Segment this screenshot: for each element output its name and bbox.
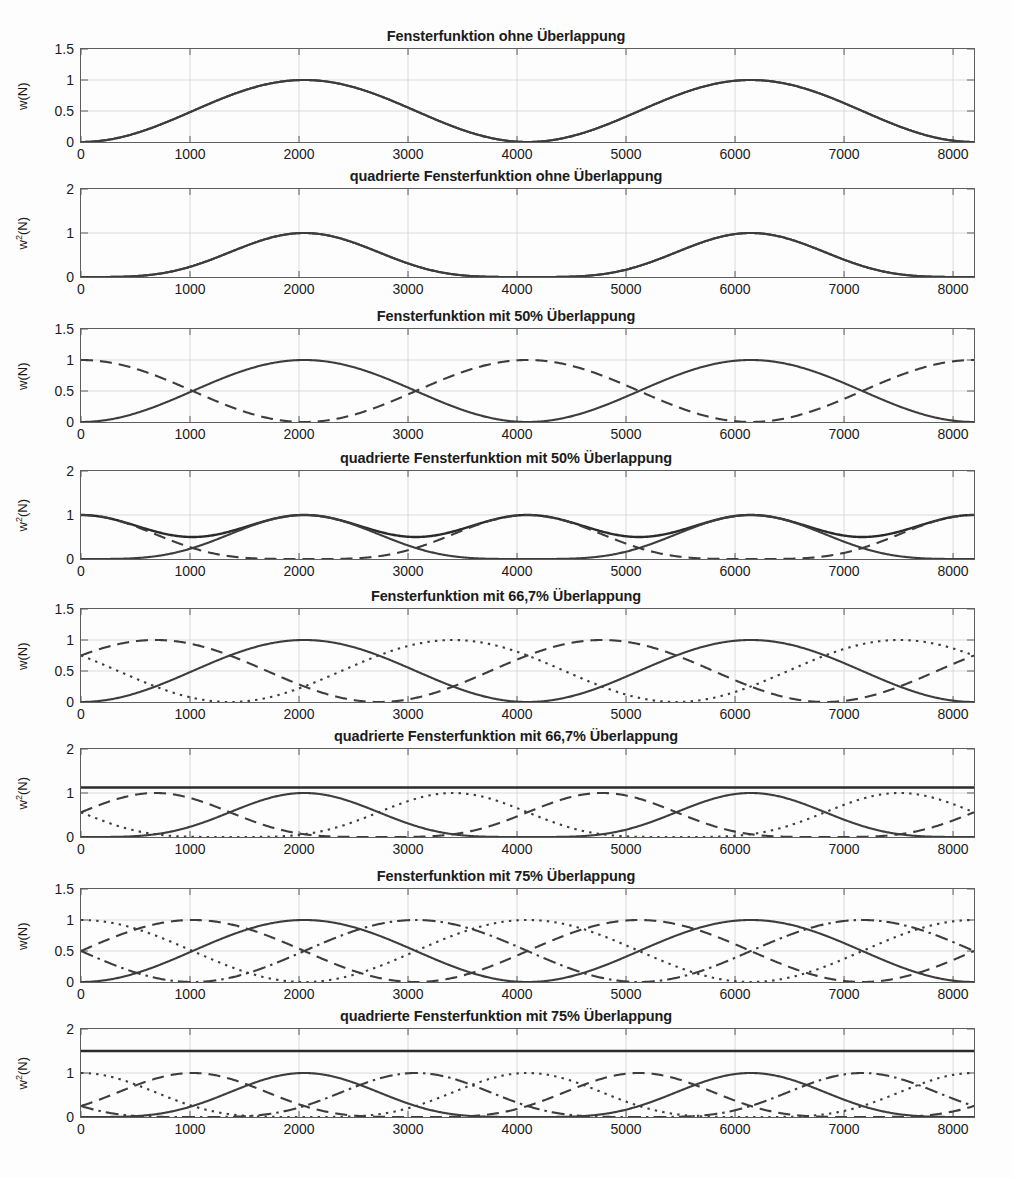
- plot-area: [80, 1028, 975, 1118]
- x-tick-label: 4000: [501, 986, 532, 1002]
- y-tick-label: 2: [4, 1021, 74, 1037]
- y-tick-label: 0: [4, 134, 74, 150]
- x-tick-label: 2000: [283, 841, 314, 857]
- x-tick-label: 8000: [937, 563, 968, 579]
- plot-area: [80, 328, 975, 423]
- y-axis-label: w2(N): [14, 763, 30, 823]
- y-axis-label: w(N): [14, 346, 30, 406]
- x-tick-label: 1000: [174, 426, 205, 442]
- y-axis-label-base: w: [15, 800, 30, 809]
- x-tick-label: 4000: [501, 1121, 532, 1137]
- x-tick-label: 0: [77, 986, 85, 1002]
- x-tick-label: 6000: [719, 426, 750, 442]
- x-tick-label: 8000: [937, 146, 968, 162]
- y-axis-label-base: w: [15, 380, 30, 389]
- y-axis-label-base: w: [15, 240, 30, 249]
- y-tick-label: 0: [4, 974, 74, 990]
- x-tick-label: 7000: [828, 841, 859, 857]
- x-tick-label: 5000: [610, 986, 641, 1002]
- y-axis-label-exponent: 2: [14, 517, 24, 522]
- x-tick-label: 6000: [719, 563, 750, 579]
- y-axis-label-tail: (N): [15, 362, 30, 380]
- y-tick-label: 0: [4, 551, 74, 567]
- subplot-7: Fensterfunktion mit 75% Überlappung00.51…: [0, 868, 1012, 1009]
- x-tick-label: 6000: [719, 1121, 750, 1137]
- plot-area: [80, 188, 975, 278]
- x-tick-label: 7000: [828, 426, 859, 442]
- x-tick-label: 0: [77, 281, 85, 297]
- x-tick-label: 3000: [392, 706, 423, 722]
- y-axis-label-tail: (N): [15, 82, 30, 100]
- plot-canvas: [81, 749, 974, 837]
- subplot-5: Fensterfunktion mit 66,7% Überlappung00.…: [0, 588, 1012, 729]
- window-curve-2: [81, 1073, 974, 1117]
- subplot-title: Fensterfunktion mit 66,7% Überlappung: [0, 588, 1012, 604]
- window-curve-2: [81, 515, 974, 559]
- subplot-1: Fensterfunktion ohne Überlappung00.511.5…: [0, 28, 1012, 169]
- y-axis-label-base: w: [15, 522, 30, 531]
- x-tick-label: 0: [77, 841, 85, 857]
- window-curve-1: [81, 1073, 974, 1117]
- x-tick-label: 8000: [937, 841, 968, 857]
- x-tick-label: 3000: [392, 146, 423, 162]
- x-tick-label: 7000: [828, 563, 859, 579]
- x-tick-label: 0: [77, 1121, 85, 1137]
- y-axis-label-base: w: [15, 940, 30, 949]
- plot-area: [80, 48, 975, 143]
- y-tick-label: 0: [4, 829, 74, 845]
- x-tick-label: 8000: [937, 1121, 968, 1137]
- x-tick-label: 7000: [828, 1121, 859, 1137]
- x-tick-label: 2000: [283, 146, 314, 162]
- x-tick-label: 6000: [719, 841, 750, 857]
- y-axis-label-tail: (N): [15, 1057, 30, 1075]
- y-tick-label: 0: [4, 694, 74, 710]
- window-curve-1: [81, 515, 974, 559]
- x-tick-label: 2000: [283, 1121, 314, 1137]
- window-function-figure: Fensterfunktion ohne Überlappung00.511.5…: [0, 0, 1012, 1178]
- window-curve-4: [81, 1073, 974, 1117]
- subplot-2: quadrierte Fensterfunktion ohne Überlapp…: [0, 168, 1012, 304]
- plot-canvas: [81, 189, 974, 277]
- plot-area: [80, 608, 975, 703]
- y-axis-label-tail: (N): [15, 499, 30, 517]
- x-tick-label: 1000: [174, 281, 205, 297]
- y-axis-label-base: w: [15, 1080, 30, 1089]
- subplot-title: Fensterfunktion mit 50% Überlappung: [0, 308, 1012, 324]
- x-tick-label: 2000: [283, 563, 314, 579]
- x-tick-label: 1000: [174, 706, 205, 722]
- window-curve-1: [81, 793, 974, 837]
- x-tick-label: 5000: [610, 1121, 641, 1137]
- y-axis-label-tail: (N): [15, 922, 30, 940]
- x-tick-label: 0: [77, 146, 85, 162]
- y-axis-label: w2(N): [14, 203, 30, 263]
- x-tick-label: 7000: [828, 146, 859, 162]
- y-axis-label-base: w: [15, 100, 30, 109]
- y-tick-label: 0: [4, 1109, 74, 1125]
- x-tick-label: 3000: [392, 841, 423, 857]
- y-axis-label-base: w: [15, 660, 30, 669]
- subplot-4: quadrierte Fensterfunktion mit 50% Überl…: [0, 450, 1012, 586]
- y-tick-label: 0: [4, 269, 74, 285]
- subplot-title: quadrierte Fensterfunktion mit 66,7% Übe…: [0, 728, 1012, 744]
- y-axis-label: w2(N): [14, 485, 30, 545]
- x-tick-label: 6000: [719, 146, 750, 162]
- x-tick-label: 5000: [610, 563, 641, 579]
- y-axis-label: w2(N): [14, 1043, 30, 1103]
- x-tick-label: 0: [77, 563, 85, 579]
- plot-canvas: [81, 49, 974, 142]
- y-tick-label: 2: [4, 181, 74, 197]
- x-tick-label: 5000: [610, 706, 641, 722]
- plot-canvas: [81, 329, 974, 422]
- x-tick-label: 5000: [610, 146, 641, 162]
- plot-canvas: [81, 471, 974, 559]
- x-tick-label: 3000: [392, 986, 423, 1002]
- subplot-title: quadrierte Fensterfunktion ohne Überlapp…: [0, 168, 1012, 184]
- subplot-title: quadrierte Fensterfunktion mit 50% Überl…: [0, 450, 1012, 466]
- x-tick-label: 4000: [501, 281, 532, 297]
- window-curve-3: [81, 793, 974, 837]
- x-tick-label: 1000: [174, 841, 205, 857]
- plot-canvas: [81, 609, 974, 702]
- x-tick-label: 3000: [392, 426, 423, 442]
- window-curve-2: [81, 233, 974, 277]
- y-axis-label-exponent: 2: [14, 235, 24, 240]
